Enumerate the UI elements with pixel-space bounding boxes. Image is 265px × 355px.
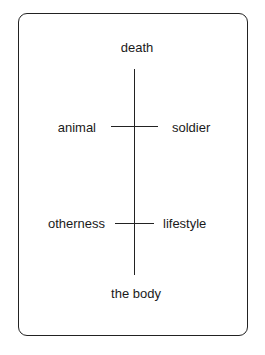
- label-bottom: the body: [111, 286, 161, 301]
- upper-crossbar-line: [111, 126, 158, 127]
- label-upper-left: animal: [58, 120, 96, 135]
- label-lower-left: otherness: [48, 216, 105, 231]
- vertical-axis-line: [134, 69, 135, 275]
- lower-crossbar-line: [115, 223, 154, 224]
- label-top: death: [121, 40, 154, 55]
- label-lower-right: lifestyle: [163, 216, 206, 231]
- label-upper-right: soldier: [172, 120, 210, 135]
